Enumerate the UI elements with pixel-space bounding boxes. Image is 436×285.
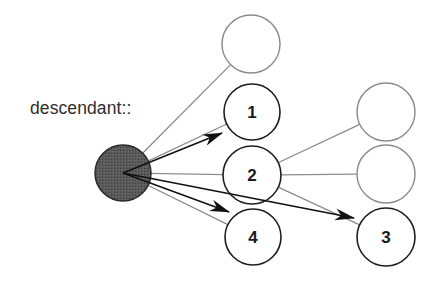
tree-node-n-top: [222, 15, 280, 73]
node-circle: [357, 145, 415, 203]
tree-edge-n2-n-righttop: [276, 124, 359, 163]
tree-edge-n2-n-rightmid: [279, 174, 357, 175]
nodes: 1243: [95, 15, 415, 266]
tree-node-n1: 1: [224, 84, 280, 140]
node-circle: [222, 15, 280, 73]
node-circle: [357, 83, 415, 141]
node-label: 1: [247, 103, 256, 122]
node-label: 2: [247, 166, 256, 185]
tree-node-n2: 2: [223, 146, 281, 204]
axis-label: descendant::: [30, 98, 131, 119]
tree-edge-context-n2: [149, 173, 223, 174]
tree-node-n3: 3: [357, 208, 415, 266]
node-label: 4: [248, 228, 258, 247]
tree-edge-context-n-top: [141, 65, 230, 155]
tree-node-n-righttop: [357, 83, 415, 141]
descendant-axis-diagram: 1243 descendant::: [0, 0, 436, 285]
diagram-svg: 1243: [0, 0, 436, 285]
node-label: 3: [381, 228, 390, 247]
tree-node-n-rightmid: [357, 145, 415, 203]
tree-node-n4: 4: [225, 209, 281, 265]
tree-edge-context-n1: [147, 124, 227, 162]
